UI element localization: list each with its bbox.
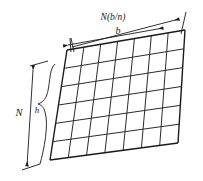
left-brace-dimension-label: h	[35, 105, 40, 115]
left-extension-bottom	[22, 164, 40, 170]
figure-container: N(b/n) b N h	[0, 0, 203, 181]
left-height-dimension	[22, 61, 48, 170]
left-height-dimension-label: N	[14, 107, 23, 118]
top-inner-dimension-label: b	[116, 25, 121, 36]
left-extension-top	[30, 61, 48, 66]
left-height-dimension-line	[27, 70, 33, 166]
top-outer-dimension-line	[72, 19, 179, 47]
top-outer-dimension-label: N(b/n)	[100, 12, 126, 23]
brace-icon	[38, 64, 55, 164]
left-brace-dimension	[38, 64, 55, 164]
diagram-svg: N(b/n) b N h	[0, 0, 203, 181]
grid-panel	[50, 30, 185, 160]
